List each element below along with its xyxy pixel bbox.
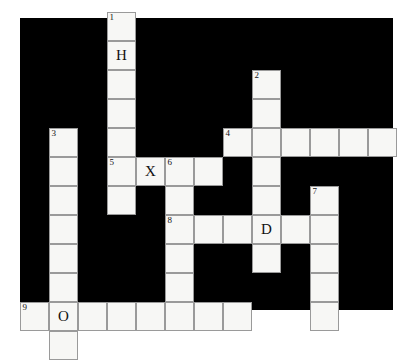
cell-r5c5[interactable]: 6 — [165, 157, 194, 186]
cell-r10c2[interactable] — [78, 302, 107, 331]
cell-r7c9[interactable] — [281, 215, 310, 244]
cell-letter: X — [137, 158, 164, 185]
cell-r4c9[interactable] — [281, 128, 310, 157]
cell-number: 3 — [52, 128, 57, 138]
cell-number: 8 — [168, 215, 173, 225]
cell-r5c8[interactable] — [252, 157, 281, 186]
cell-letter: D — [253, 216, 280, 243]
cell-r5c1[interactable] — [49, 157, 78, 186]
cell-r10c4[interactable] — [136, 302, 165, 331]
cell-r10c3[interactable] — [107, 302, 136, 331]
cell-r6c3[interactable] — [107, 186, 136, 215]
cell-r1c3[interactable]: H — [107, 41, 136, 70]
cell-r10c0[interactable]: 9 — [20, 302, 49, 331]
cell-r8c10[interactable] — [310, 244, 339, 273]
cell-r7c7[interactable] — [223, 215, 252, 244]
cell-r4c1[interactable]: 3 — [49, 128, 78, 157]
cell-r5c6[interactable] — [194, 157, 223, 186]
cell-r2c8[interactable]: 2 — [252, 70, 281, 99]
cell-number: 7 — [313, 186, 318, 196]
cell-r6c1[interactable] — [49, 186, 78, 215]
cell-r3c8[interactable] — [252, 99, 281, 128]
crossword-grid[interactable]: 1H2345X678D9O — [20, 18, 393, 310]
cell-letter: O — [50, 303, 77, 330]
cell-r7c6[interactable] — [194, 215, 223, 244]
cell-r0c3[interactable]: 1 — [107, 12, 136, 41]
cell-number: 5 — [110, 157, 115, 167]
cell-r7c5[interactable]: 8 — [165, 215, 194, 244]
cell-r11c1[interactable] — [49, 331, 78, 360]
cell-number: 9 — [23, 302, 28, 312]
cell-r10c1[interactable]: O — [49, 302, 78, 331]
cell-r5c4[interactable]: X — [136, 157, 165, 186]
cell-r5c3[interactable]: 5 — [107, 157, 136, 186]
cell-r4c8[interactable] — [252, 128, 281, 157]
cell-r7c8[interactable]: D — [252, 215, 281, 244]
cell-number: 1 — [110, 12, 115, 22]
cell-r7c1[interactable] — [49, 215, 78, 244]
cell-r9c10[interactable] — [310, 273, 339, 302]
cell-r8c8[interactable] — [252, 244, 281, 273]
cell-r10c7[interactable] — [223, 302, 252, 331]
cell-r9c5[interactable] — [165, 273, 194, 302]
cell-r8c1[interactable] — [49, 244, 78, 273]
cell-r4c3[interactable] — [107, 128, 136, 157]
cell-r6c10[interactable]: 7 — [310, 186, 339, 215]
cell-r2c3[interactable] — [107, 70, 136, 99]
cell-letter: H — [108, 42, 135, 69]
crossword-board: 1H2345X678D9O — [20, 18, 393, 310]
cell-r8c5[interactable] — [165, 244, 194, 273]
cell-number: 2 — [255, 70, 260, 80]
cell-r9c1[interactable] — [49, 273, 78, 302]
cell-r6c8[interactable] — [252, 186, 281, 215]
cell-r4c10[interactable] — [310, 128, 339, 157]
cell-r6c5[interactable] — [165, 186, 194, 215]
cell-r4c11[interactable] — [339, 128, 368, 157]
cell-number: 4 — [226, 128, 231, 138]
cell-r10c5[interactable] — [165, 302, 194, 331]
cell-r3c3[interactable] — [107, 99, 136, 128]
cell-r7c10[interactable] — [310, 215, 339, 244]
cell-r10c10[interactable] — [310, 302, 339, 331]
cell-r10c6[interactable] — [194, 302, 223, 331]
cell-number: 6 — [168, 157, 173, 167]
cell-r4c7[interactable]: 4 — [223, 128, 252, 157]
cell-r4c12[interactable] — [368, 128, 397, 157]
